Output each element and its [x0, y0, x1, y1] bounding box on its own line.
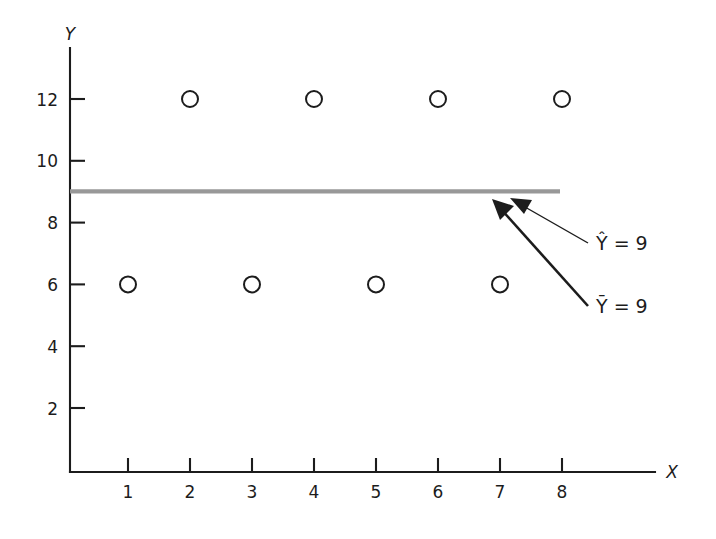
y-tick-label-6: 6 — [47, 275, 58, 295]
x-tick-labels: 1 2 3 4 5 6 7 8 — [123, 482, 568, 502]
y-hat-annotation-group — [510, 198, 588, 243]
y-tick-label-4: 4 — [47, 337, 58, 357]
x-tick-label-3: 3 — [247, 482, 258, 502]
scatter-plot-canvas: 12 10 8 6 4 2 1 2 3 4 5 6 7 8 — [0, 0, 716, 539]
y-tick-marks — [70, 99, 85, 408]
x-tick-label-7: 7 — [495, 482, 506, 502]
y-bar-leader-line — [500, 208, 588, 306]
x-tick-label-4: 4 — [309, 482, 320, 502]
x-tick-marks — [128, 458, 562, 472]
chart-figure: 12 10 8 6 4 2 1 2 3 4 5 6 7 8 — [0, 0, 716, 539]
y-bar-arrow-head — [492, 199, 514, 220]
data-point — [120, 276, 136, 292]
y-hat-leader-line — [518, 203, 588, 243]
y-tick-label-12: 12 — [36, 90, 58, 110]
x-tick-label-1: 1 — [123, 482, 134, 502]
y-tick-labels: 12 10 8 6 4 2 — [36, 90, 58, 419]
x-tick-label-2: 2 — [185, 482, 196, 502]
y-hat-label: Ŷ = 9 — [595, 231, 648, 254]
data-point — [492, 276, 508, 292]
x-axis-title: X — [665, 462, 678, 482]
y-bar-label: Ȳ = 9 — [595, 294, 648, 317]
axis-group — [70, 48, 655, 472]
data-point — [306, 91, 322, 107]
y-tick-label-10: 10 — [36, 151, 58, 171]
y-tick-label-2: 2 — [47, 399, 58, 419]
x-tick-label-6: 6 — [433, 482, 444, 502]
x-tick-label-8: 8 — [557, 482, 568, 502]
x-tick-label-5: 5 — [371, 482, 382, 502]
data-point — [182, 91, 198, 107]
data-point — [554, 91, 570, 107]
data-point — [430, 91, 446, 107]
y-tick-label-8: 8 — [47, 213, 58, 233]
y-axis-title: Y — [65, 24, 77, 44]
data-point — [244, 276, 260, 292]
data-point — [368, 276, 384, 292]
